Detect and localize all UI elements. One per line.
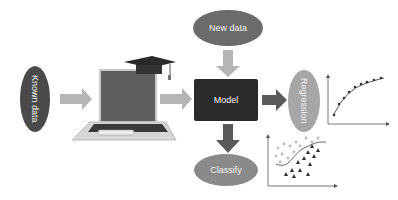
arrow-model-to-classify: [216, 124, 240, 154]
regression-label: Regression: [299, 78, 309, 124]
classification-plot-icon: [264, 134, 338, 190]
regression-plot-icon: [324, 74, 390, 130]
known-data-label: Known data: [30, 75, 40, 123]
new-data-node: New data: [193, 10, 263, 46]
known-data-node: Known data: [20, 66, 50, 132]
classify-label: Classify: [210, 165, 242, 175]
laptop-screen: [100, 70, 156, 122]
model-label: Model: [214, 95, 239, 105]
new-data-label: New data: [209, 23, 247, 33]
arrow-laptop-to-model: [160, 88, 194, 110]
arrow-newdata-to-model: [216, 50, 240, 78]
classify-node: Classify: [194, 154, 258, 186]
arrow-model-to-regression: [262, 89, 288, 111]
diploma-icon: [98, 130, 134, 135]
model-node: Model: [194, 79, 258, 121]
regression-node: Regression: [288, 70, 320, 132]
